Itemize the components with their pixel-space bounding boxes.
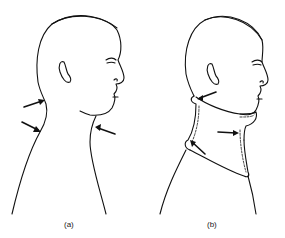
panel-a-figure <box>12 16 124 214</box>
panel-a-label: (a) <box>64 220 74 229</box>
eye-icon <box>106 58 116 63</box>
panel-b-figure <box>160 16 268 214</box>
arrow-icon <box>98 128 115 134</box>
ear-icon <box>59 62 71 83</box>
figure-canvas <box>0 0 285 238</box>
head-back-outline <box>185 17 262 96</box>
back-outline <box>160 150 186 214</box>
collar-top-edge <box>196 97 257 140</box>
face-outline <box>205 16 268 114</box>
collar-bottom-edge <box>190 140 249 177</box>
face-outline <box>52 16 124 116</box>
panel-a-arrows <box>22 99 115 134</box>
panel-b-label: (b) <box>207 220 217 229</box>
ear-icon <box>207 64 219 85</box>
panel-b-arrows <box>190 92 239 154</box>
chest-outline <box>248 176 256 214</box>
eye-icon <box>252 60 262 65</box>
